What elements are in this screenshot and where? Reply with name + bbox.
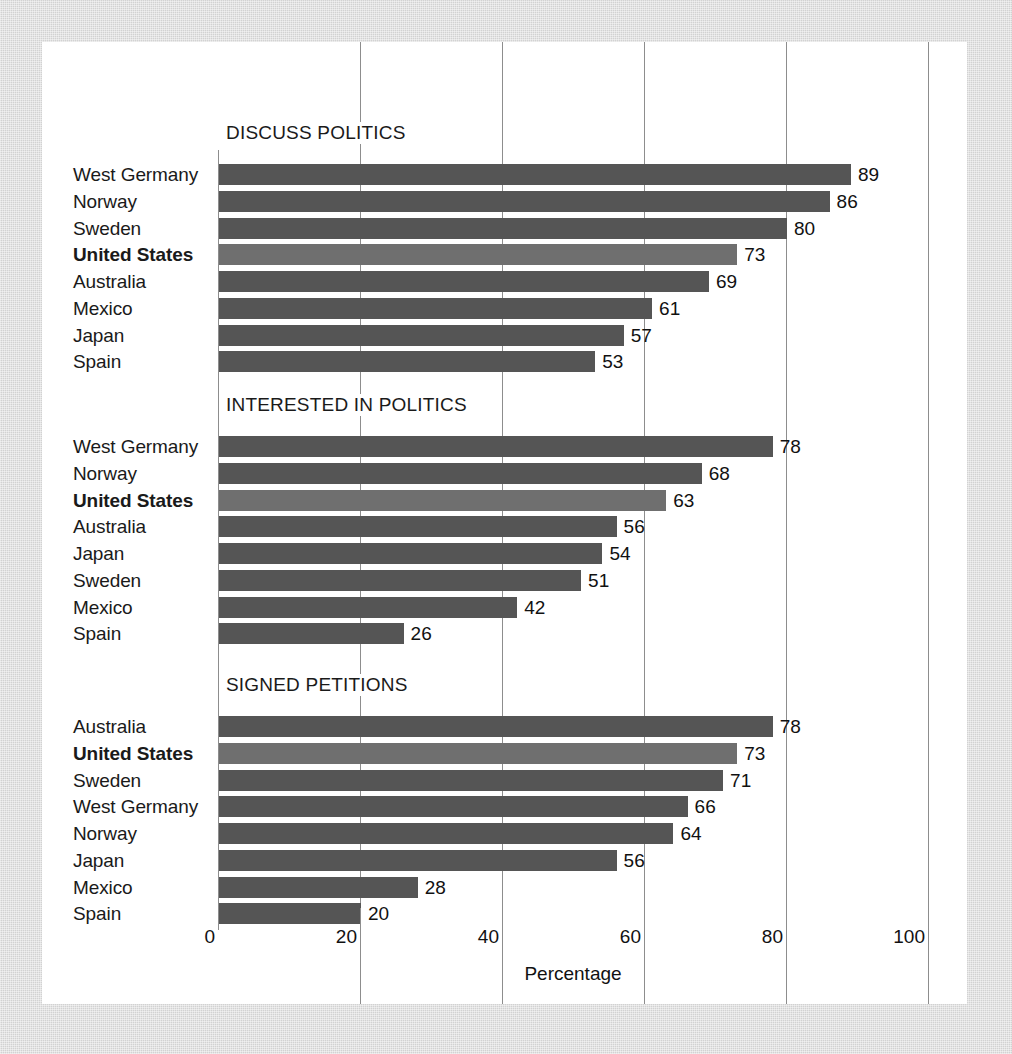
category-label: Spain: [73, 621, 213, 648]
bar-value-label: 56: [624, 848, 645, 873]
panel-3-category-labels: AustraliaUnited StatesSwedenWest Germany…: [73, 714, 213, 928]
bar: [219, 191, 830, 212]
x-axis: 020406080100: [218, 908, 928, 968]
bar: [219, 490, 666, 511]
bar-row: 69: [218, 269, 928, 296]
bar-row: 28: [218, 875, 928, 902]
x-tick-40: [502, 908, 503, 930]
x-tick-label: 20: [336, 926, 360, 948]
bar-value-label: 26: [411, 621, 432, 646]
bar-row: 64: [218, 821, 928, 848]
bar-value-label: 69: [716, 269, 737, 294]
bar: [219, 543, 602, 564]
bar: [219, 436, 773, 457]
bar-row: 78: [218, 714, 928, 741]
panel-3-bars: 7873716664562820: [218, 714, 928, 928]
bar-row: 86: [218, 189, 928, 216]
bar-row: 57: [218, 323, 928, 350]
bar: [219, 850, 617, 871]
bar-value-label: 68: [709, 461, 730, 486]
bar-value-label: 73: [744, 242, 765, 267]
category-label: Spain: [73, 901, 213, 928]
panel-1-category-labels: West GermanyNorwaySwedenUnited StatesAus…: [73, 162, 213, 376]
category-label: Sweden: [73, 768, 213, 795]
bar: [219, 516, 617, 537]
bar-value-label: 78: [780, 434, 801, 459]
bar: [219, 325, 624, 346]
bar-value-label: 66: [695, 794, 716, 819]
x-tick-60: [644, 908, 645, 930]
panel-2-bars: 7868635654514226: [218, 434, 928, 648]
bar-row: 71: [218, 768, 928, 795]
category-label: Australia: [73, 269, 213, 296]
x-tick-label: 40: [478, 926, 502, 948]
bar-row: 61: [218, 296, 928, 323]
category-label: Mexico: [73, 296, 213, 323]
x-tick-0: [218, 908, 219, 930]
bar-row: 68: [218, 461, 928, 488]
x-tick-label: 60: [620, 926, 644, 948]
panel-1-bars: 8986807369615753: [218, 162, 928, 376]
bar: [219, 244, 737, 265]
bar: [219, 570, 581, 591]
bar: [219, 623, 404, 644]
category-label: United States: [73, 741, 213, 768]
bar-row: 51: [218, 568, 928, 595]
category-label: Norway: [73, 189, 213, 216]
category-label: West Germany: [73, 434, 213, 461]
bar-row: 66: [218, 794, 928, 821]
bar-row: 78: [218, 434, 928, 461]
category-label: Mexico: [73, 875, 213, 902]
category-label: United States: [73, 488, 213, 515]
bar-value-label: 86: [837, 189, 858, 214]
x-tick-label: 100: [893, 926, 928, 948]
x-tick-20: [360, 908, 361, 930]
gridline-100: [928, 42, 929, 1004]
panels-layer: DISCUSS POLITICS8986807369615753INTEREST…: [218, 42, 928, 1004]
x-axis-title: Percentage: [218, 963, 928, 985]
bar-row: 73: [218, 242, 928, 269]
category-label: Norway: [73, 461, 213, 488]
bar-row: 80: [218, 216, 928, 243]
x-tick-100: [928, 908, 929, 930]
category-label: Japan: [73, 323, 213, 350]
bar: [219, 218, 787, 239]
bar-value-label: 61: [659, 296, 680, 321]
bar-row: 63: [218, 488, 928, 515]
bar: [219, 298, 652, 319]
bar: [219, 823, 673, 844]
category-label: Australia: [73, 714, 213, 741]
bar: [219, 743, 737, 764]
bar-value-label: 73: [744, 741, 765, 766]
category-label: Japan: [73, 848, 213, 875]
category-label: Mexico: [73, 595, 213, 622]
category-label: Sweden: [73, 216, 213, 243]
bar-row: 56: [218, 514, 928, 541]
bar: [219, 770, 723, 791]
category-label: Spain: [73, 349, 213, 376]
bar: [219, 877, 418, 898]
category-label: West Germany: [73, 162, 213, 189]
bar: [219, 796, 688, 817]
panel-title-3: SIGNED PETITIONS: [226, 674, 414, 696]
category-label: Sweden: [73, 568, 213, 595]
panel-title-1: DISCUSS POLITICS: [226, 122, 412, 144]
category-label: Australia: [73, 514, 213, 541]
bar: [219, 164, 851, 185]
bar-value-label: 64: [680, 821, 701, 846]
x-tick-label: 80: [762, 926, 786, 948]
bar: [219, 463, 702, 484]
figure-card: West GermanyNorwaySwedenUnited StatesAus…: [42, 42, 967, 1004]
bar: [219, 351, 595, 372]
bar-value-label: 54: [609, 541, 630, 566]
bar-value-label: 89: [858, 162, 879, 187]
bar-value-label: 80: [794, 216, 815, 241]
bar: [219, 271, 709, 292]
category-label: West Germany: [73, 794, 213, 821]
bar-value-label: 57: [631, 323, 652, 348]
bar-value-label: 53: [602, 349, 623, 374]
bar-value-label: 63: [673, 488, 694, 513]
bar-value-label: 56: [624, 514, 645, 539]
bar-value-label: 42: [524, 595, 545, 620]
x-tick-80: [786, 908, 787, 930]
